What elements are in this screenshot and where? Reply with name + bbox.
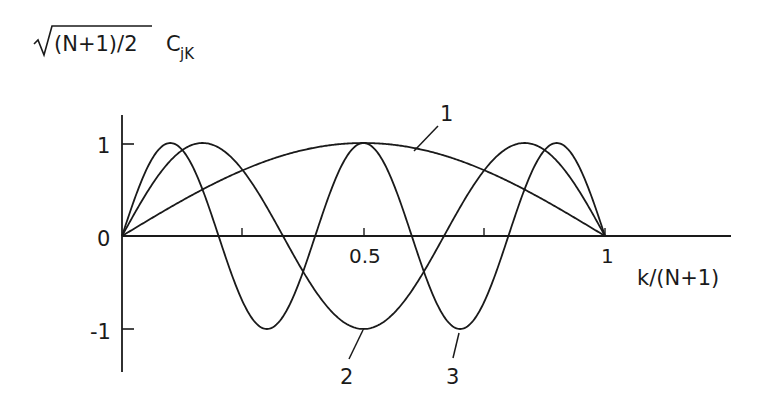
curve-1-line (122, 143, 605, 236)
y-tick-label-1: 1 (97, 134, 110, 158)
curve-3-leader (453, 333, 459, 358)
y-label-symbol: C (166, 32, 181, 56)
y-tick-label-minus1: -1 (90, 320, 111, 344)
y-tick-label-0: 0 (97, 227, 110, 251)
x-tick-label-1: 1 (601, 244, 614, 268)
x-tick-label-05: 0.5 (349, 244, 381, 268)
chart-figure: (N+1)/2 C jK 1 0 -1 0.5 1 k/(N+1) 1 2 3 (0, 0, 760, 400)
curve-1-label: 1 (440, 102, 453, 126)
curve-2-leader (349, 330, 363, 359)
curve-1-leader (414, 126, 438, 151)
y-axis-label: (N+1)/2 C jK (34, 26, 195, 63)
curve-2-label: 2 (340, 365, 353, 389)
y-label-subscript: jK (179, 45, 195, 63)
curve-3-label: 3 (446, 365, 459, 389)
y-label-sqrt-arg: (N+1)/2 (54, 32, 138, 56)
x-axis-label: k/(N+1) (637, 266, 719, 290)
